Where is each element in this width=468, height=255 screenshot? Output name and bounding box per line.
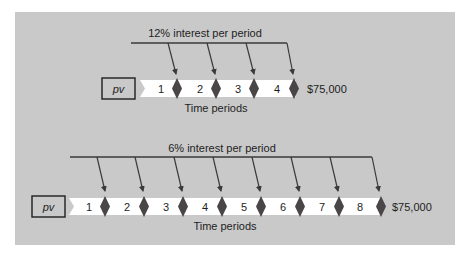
diagram-6-percent: 6% interest per period pv 1 2 3 4 5 6 7 … — [32, 142, 432, 232]
future-value-label: $75,000 — [392, 201, 432, 213]
interest-arrows — [168, 43, 293, 74]
period-label: 1 — [158, 83, 164, 95]
arrow-icon — [330, 157, 338, 191]
arrow-icon — [207, 43, 215, 74]
axis-label: Time periods — [193, 220, 257, 232]
arrow-icon — [252, 157, 260, 191]
pv-label: pv — [42, 201, 56, 213]
period-label: 6 — [280, 201, 286, 213]
period-label: 3 — [235, 83, 241, 95]
arrow-icon — [97, 157, 105, 191]
arrow-icon — [135, 157, 143, 191]
period-label: 3 — [163, 201, 169, 213]
period-label: 7 — [319, 201, 325, 213]
interest-label: 12% interest per period — [148, 27, 262, 39]
arrow-icon — [291, 157, 299, 191]
future-value-label: $75,000 — [307, 83, 347, 95]
diagram-12-percent: 12% interest per period pv 1 2 3 4 $75,0… — [102, 27, 347, 114]
arrow-icon — [372, 157, 379, 191]
interest-label: 6% interest per period — [168, 142, 276, 154]
period-label: 8 — [357, 201, 363, 213]
period-label: 1 — [86, 201, 92, 213]
period-label: 5 — [241, 201, 247, 213]
pv-label: pv — [112, 83, 126, 95]
compounding-diagrams: 12% interest per period pv 1 2 3 4 $75,0… — [0, 0, 468, 255]
period-label: 2 — [124, 201, 130, 213]
arrow-icon — [287, 43, 293, 74]
arrow-icon — [174, 157, 182, 191]
period-label: 2 — [197, 83, 203, 95]
arrow-icon — [246, 43, 254, 74]
period-label: 4 — [202, 201, 208, 213]
axis-label: Time periods — [184, 102, 248, 114]
period-label: 4 — [274, 83, 280, 95]
arrow-icon — [168, 43, 176, 74]
arrow-icon — [213, 157, 221, 191]
interest-arrows — [97, 157, 379, 191]
